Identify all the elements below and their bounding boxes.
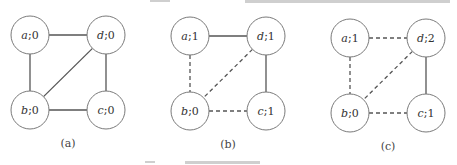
panel-caption-b: (b) (220, 138, 236, 151)
node-b-a: a;1 (171, 17, 209, 55)
edge-c-d-b (364, 51, 413, 99)
node-label: a;1 (181, 30, 198, 43)
node-label: c;1 (258, 105, 275, 118)
clipped-text-top (150, 0, 450, 3)
node-label: b;0 (181, 105, 199, 118)
node-b-b: b;0 (171, 92, 209, 130)
node-a-a: a;0 (11, 16, 49, 54)
edge-a-d-b (44, 48, 93, 96)
node-label: c;1 (418, 107, 435, 120)
captions-layer: (a)(b)(c) (60, 137, 395, 153)
panel-caption-a: (a) (60, 137, 75, 150)
node-c-b: b;0 (331, 94, 369, 132)
node-label: c;0 (98, 104, 115, 117)
graph-figure: a;0d;0b;0c;0a;1d;1b;0c;1a;1d;2b;0c;1 (a)… (0, 0, 457, 165)
node-b-c: c;1 (247, 92, 285, 130)
node-c-d: d;2 (407, 19, 445, 57)
node-a-d: d;0 (87, 16, 125, 54)
clipped-text-bottom (145, 161, 260, 164)
node-a-c: c;0 (87, 91, 125, 129)
node-a-b: b;0 (11, 91, 49, 129)
node-b-d: d;1 (247, 17, 285, 55)
node-label: d;1 (257, 30, 275, 43)
node-label: d;2 (417, 32, 435, 45)
node-c-c: c;1 (407, 94, 445, 132)
node-label: b;0 (21, 104, 39, 117)
nodes-layer: a;0d;0b;0c;0a;1d;1b;0c;1a;1d;2b;0c;1 (11, 16, 445, 132)
node-label: b;0 (341, 107, 359, 120)
node-label: a;0 (21, 29, 38, 42)
panel-caption-c: (c) (381, 140, 396, 153)
node-c-a: a;1 (331, 19, 369, 57)
node-label: a;1 (341, 32, 358, 45)
node-label: d;0 (97, 29, 115, 42)
edge-b-d-b (204, 49, 253, 97)
